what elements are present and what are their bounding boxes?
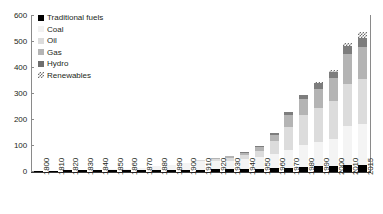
bar-segment: [284, 127, 293, 150]
chart-legend: Traditional fuelsCoalOilGasHydroRenewabl…: [38, 12, 158, 81]
bar-segment: [270, 141, 279, 153]
x-axis-tick-label: 1880: [160, 165, 169, 175]
x-axis-tick-label: 1990: [322, 165, 331, 175]
x-axis-tick-label: 1840: [101, 165, 110, 175]
legend-swatch-icon: [38, 26, 44, 32]
x-axis-tick-label: 2010: [351, 165, 360, 175]
bar-segment: [358, 38, 367, 47]
bar-segment: [358, 47, 367, 80]
x-axis-tick-label: 1850: [116, 165, 125, 175]
bar-column: [329, 70, 338, 172]
x-axis-line: [31, 172, 371, 173]
y-axis-tick-label: 500: [0, 37, 31, 47]
x-axis-tick-label: 1970: [292, 165, 301, 175]
x-axis-tick-label: 1800: [42, 165, 51, 175]
plot-right-border: [370, 15, 371, 173]
x-axis-tick-label: 1890: [175, 165, 184, 175]
y-axis-tick-label: 300: [0, 89, 31, 99]
bar-segment: [255, 151, 264, 158]
y-axis-tick-label: 0: [0, 167, 31, 177]
bar-segment: [343, 54, 352, 84]
bar-segment: [343, 84, 352, 126]
bar-segment: [284, 115, 293, 127]
y-tick-value: 200: [0, 115, 31, 125]
y-axis-tick-label: 600: [0, 11, 31, 21]
bar-segment: [343, 46, 352, 54]
bar-segment: [299, 115, 308, 145]
legend-label: Renewables: [47, 71, 91, 80]
x-axis-tick-label: 1860: [130, 165, 139, 175]
legend-label: Traditional fuels: [47, 13, 103, 22]
legend-item: Renewables: [38, 70, 158, 82]
x-axis-tick-label: 1920: [219, 165, 228, 175]
y-tick-value: 500: [0, 37, 31, 47]
bar-segment: [314, 108, 323, 142]
y-tick-value: 0: [0, 167, 31, 177]
bar-segment: [329, 78, 338, 101]
legend-swatch-icon: [38, 72, 44, 78]
legend-item: Coal: [38, 24, 158, 36]
bar-segment: [314, 89, 323, 108]
x-axis-tick-label: 1980: [307, 165, 316, 175]
y-tick-value: 400: [0, 63, 31, 73]
legend-item: Oil: [38, 35, 158, 47]
y-tick-value: 100: [0, 141, 31, 151]
bar-segment: [358, 79, 367, 124]
x-axis-tick-label: 1870: [145, 165, 154, 175]
legend-label: Hydro: [47, 59, 68, 68]
legend-swatch-icon: [38, 38, 44, 44]
legend-label: Oil: [47, 36, 57, 45]
x-axis-tick-label: 1810: [57, 165, 66, 175]
x-axis-tick-label: 1950: [263, 165, 272, 175]
bar-segment: [329, 101, 338, 139]
x-axis-tick-label: 1820: [71, 165, 80, 175]
x-axis-tick-label: 1940: [248, 165, 257, 175]
legend-item: Traditional fuels: [38, 12, 158, 24]
x-axis-tick-label: 2015: [366, 165, 375, 175]
x-axis-tick-label: 1910: [204, 165, 213, 175]
x-axis-tick-label: 1930: [233, 165, 242, 175]
y-axis-tick-label: 100: [0, 141, 31, 151]
y-axis-tick-label: 400: [0, 63, 31, 73]
x-axis-tick-label: 1830: [86, 165, 95, 175]
legend-swatch-icon: [38, 15, 44, 21]
bar-column: [343, 43, 352, 172]
x-axis-tick-label: 1900: [189, 165, 198, 175]
bar-column: [358, 32, 367, 172]
legend-swatch-icon: [38, 49, 44, 55]
legend-label: Gas: [47, 48, 62, 57]
y-axis-tick-label: 200: [0, 115, 31, 125]
legend-item: Gas: [38, 47, 158, 59]
x-axis-tick-label: 1960: [278, 165, 287, 175]
legend-swatch-icon: [38, 61, 44, 67]
bar-segment: [270, 135, 279, 142]
y-tick-value: 600: [0, 11, 31, 21]
stacked-bar-chart: 0100200300400500600 18001810182018301840…: [0, 0, 383, 214]
legend-label: Coal: [47, 25, 63, 34]
bar-segment: [299, 99, 308, 115]
legend-item: Hydro: [38, 58, 158, 70]
x-axis-tick-label: 2000: [337, 165, 346, 175]
y-tick-value: 300: [0, 89, 31, 99]
